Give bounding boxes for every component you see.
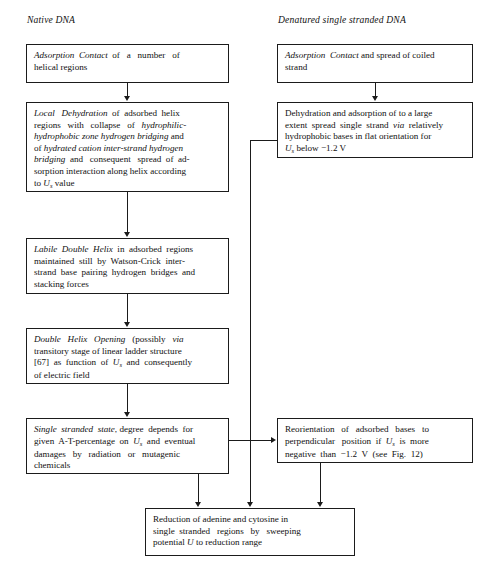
edge-right2-bottom-arrowhead — [247, 502, 253, 507]
edge-left3-left4 — [127, 294, 128, 322]
node-double-helix-opening: Double Helix Opening (possibly via trans… — [26, 328, 229, 384]
edge-right2-bottom-horizontal — [250, 140, 278, 141]
column-heading-denatured-dna: Denatured single stranded DNA — [278, 14, 406, 25]
edge-right2-bottom-vertical — [250, 140, 251, 502]
edge-left4-left5-arrowhead — [124, 412, 130, 417]
edge-right3-bottom-arrowhead — [317, 502, 323, 507]
edge-left4-left5 — [127, 384, 128, 412]
node-reorientation-perpendicular: Reorientation of adsorbed bases to perpe… — [277, 418, 473, 463]
flowchart-canvas: Native DNA Denatured single stranded DNA… — [0, 0, 496, 568]
edge-left5-bottom-arrowhead — [195, 502, 201, 507]
node-dehydration-flat-orientation: Dehydration and adsorption of to a large… — [277, 102, 473, 158]
edge-left5-right3-arrowhead — [271, 437, 276, 443]
node-single-stranded-state: Single stranded state, degree depends fo… — [26, 418, 229, 474]
edge-right1-right2-arrowhead — [372, 96, 378, 101]
node-adsorption-contact-coiled: Adsorption Contact and spread of coiled … — [277, 44, 473, 83]
edge-right1-right2 — [375, 83, 376, 97]
column-heading-native-dna: Native DNA — [27, 14, 75, 25]
edge-left5-bottom — [198, 474, 199, 502]
node-adsorption-contact-helical: Adsorption Contact of a number of helica… — [26, 44, 229, 83]
edge-right3-bottom — [320, 463, 321, 502]
edge-left1-left2-arrowhead — [124, 96, 130, 101]
node-reduction-adenine-cytosine: Reduction of adenine and cytosine in sin… — [145, 508, 355, 556]
edge-left1-left2 — [127, 83, 128, 97]
edge-left2-left3 — [127, 192, 128, 232]
edge-left3-left4-arrowhead — [124, 322, 130, 327]
edge-left2-left3-arrowhead — [124, 232, 130, 237]
node-local-dehydration: Local Dehydration of adsorbed helix regi… — [26, 102, 229, 192]
node-labile-double-helix: Labile Double Helix in adsorbed regions … — [26, 238, 229, 294]
